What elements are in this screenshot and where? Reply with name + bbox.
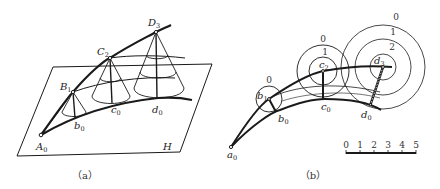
label-D3: D3 <box>147 17 160 30</box>
vertical-b <box>73 92 75 118</box>
contour-label-b-0: 0 <box>266 75 272 85</box>
label-B1: B1 <box>59 81 72 94</box>
point-c2 <box>108 56 111 59</box>
caption-b: （b） <box>300 170 326 181</box>
contour-label-d-1: 1 <box>390 27 396 37</box>
point-a0 <box>39 133 43 137</box>
caption-a: （a） <box>72 170 98 181</box>
spatial-curve <box>41 25 171 135</box>
vertical-d <box>156 32 157 99</box>
scale-tick-3: 3 <box>385 140 391 150</box>
contour-label-d-2: 2 <box>389 42 395 52</box>
label-b0: b0 <box>74 120 85 133</box>
point-d3 <box>154 30 157 33</box>
contour-label-d-0: 0 <box>393 12 399 22</box>
scale-tick-2: 2 <box>371 140 377 150</box>
scale-tick-0: 0 <box>343 140 349 150</box>
label-d0: d0 <box>152 104 163 117</box>
connector-b <box>269 99 276 112</box>
scale-tick-5: 5 <box>413 140 419 150</box>
label-d0: d0 <box>361 109 372 122</box>
label-a0: a0 <box>227 149 237 162</box>
figure-a <box>17 25 212 156</box>
contour-label-c-1: 1 <box>322 47 328 57</box>
contour-label-c-0: 0 <box>320 34 326 44</box>
point-b1 <box>268 98 271 101</box>
label-C2: C2 <box>97 46 109 59</box>
point-b1 <box>71 90 74 93</box>
label-A0: A0 <box>35 141 47 154</box>
label-c2: c2 <box>319 59 329 72</box>
ridge-a-b <box>41 92 73 135</box>
label-c0: c0 <box>321 101 331 114</box>
label-b0: b0 <box>278 113 289 126</box>
label-c0: c0 <box>111 104 121 117</box>
vertical-c <box>110 58 112 103</box>
scale-bar <box>346 150 416 154</box>
label-b1: b1 <box>257 90 268 103</box>
diagram-canvas: A0 B1 C2 D3 b0 c0 d0 H （a） <box>0 0 440 189</box>
scale-tick-1: 1 <box>357 140 363 150</box>
label-plane-h: H <box>162 141 172 152</box>
scale-tick-4: 4 <box>399 140 405 150</box>
